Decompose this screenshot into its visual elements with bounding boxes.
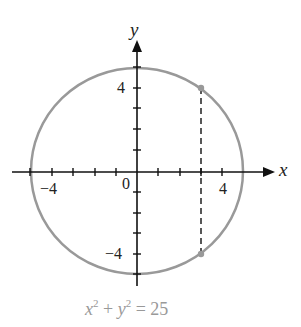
tick-label-x-neg4: −4 bbox=[40, 181, 57, 197]
tick-label-y-neg4: −4 bbox=[105, 246, 122, 262]
coordinate-plane bbox=[0, 0, 301, 327]
x-axis-label: x bbox=[279, 160, 287, 179]
origin-label: 0 bbox=[122, 176, 130, 192]
x-axis-arrow-icon bbox=[263, 167, 275, 177]
point-3-neg4 bbox=[198, 251, 204, 257]
point-3-4 bbox=[198, 85, 204, 91]
equation-label: x2 + y2 = 25 bbox=[85, 297, 168, 320]
tick-label-y-4: 4 bbox=[117, 80, 125, 96]
y-axis-label: y bbox=[130, 20, 138, 39]
tick-label-x-4: 4 bbox=[219, 181, 227, 197]
y-axis-arrow-icon bbox=[132, 40, 142, 52]
